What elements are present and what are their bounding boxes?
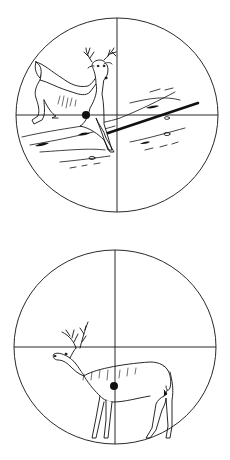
- scope-illustration-top: [0, 0, 230, 230]
- deer-broadside: [53, 322, 173, 438]
- aim-point-bottom: [110, 382, 118, 390]
- scope-view-top: Quartering deer in scope: [0, 0, 230, 230]
- scope-illustration-bottom: [0, 230, 230, 460]
- aim-point-top: [82, 111, 90, 119]
- scope-view-bottom: Broadside deer in scope: [0, 230, 230, 460]
